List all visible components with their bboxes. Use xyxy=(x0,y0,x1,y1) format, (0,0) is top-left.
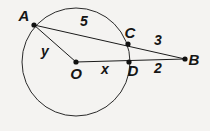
length-label-db: 2 xyxy=(153,60,162,76)
length-label-ac: 5 xyxy=(80,13,88,29)
point-label-a: A xyxy=(18,7,30,24)
geometry-canvas: A C D B O 5 y x 3 2 xyxy=(0,0,210,131)
point-label-c: C xyxy=(125,24,137,41)
point-o-dot xyxy=(73,59,78,64)
point-c-dot xyxy=(125,41,130,46)
point-a-dot xyxy=(31,22,36,27)
point-b-dot xyxy=(182,56,187,61)
length-label-ao: y xyxy=(40,43,50,59)
geometry-figure: A C D B O 5 y x 3 2 xyxy=(0,0,210,131)
point-label-o: O xyxy=(70,65,82,82)
point-label-b: B xyxy=(189,51,200,68)
segment-a-to-b xyxy=(34,25,185,59)
length-label-od: x xyxy=(100,61,110,77)
point-label-d: D xyxy=(128,62,139,79)
length-label-cb: 3 xyxy=(154,32,162,48)
